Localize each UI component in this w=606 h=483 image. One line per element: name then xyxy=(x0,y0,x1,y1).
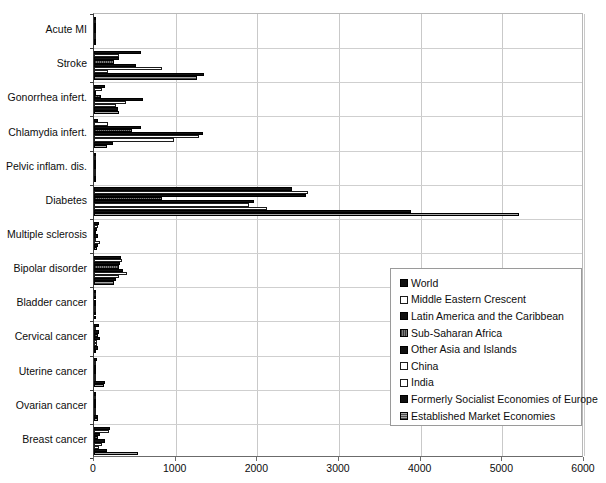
bar xyxy=(94,76,197,79)
legend-item[interactable]: India xyxy=(400,375,581,392)
legend-label: Other Asia and Islands xyxy=(411,344,517,355)
legend-swatch-icon xyxy=(400,296,408,304)
x-axis-tick-0 xyxy=(93,457,94,461)
y-axis-label-bladder-cancer: Bladder cancer xyxy=(16,297,87,308)
legend-item[interactable]: China xyxy=(400,358,581,375)
legend-item[interactable]: Other Asia and Islands xyxy=(400,341,581,358)
y-axis-tick xyxy=(90,151,94,152)
legend-label: Sub-Saharan Africa xyxy=(411,328,502,339)
bar xyxy=(94,111,119,114)
legend-label: Established Market Economies xyxy=(411,411,555,422)
category-separator xyxy=(94,253,582,254)
y-axis-label-bipolar-disorder: Bipolar disorder xyxy=(13,263,87,274)
y-axis-label-cervical-cancer: Cervical cancer xyxy=(15,331,87,342)
x-axis-tick-4000 xyxy=(420,457,421,461)
category-separator xyxy=(94,82,582,83)
legend-item[interactable]: Formerly Socialist Economies of Europe xyxy=(400,391,581,408)
y-axis-tick xyxy=(90,82,94,83)
bar xyxy=(94,281,114,284)
y-axis-label-acute-mi: Acute MI xyxy=(46,24,87,35)
legend-swatch-icon xyxy=(400,362,408,370)
legend-item[interactable]: Latin America and the Caribbean xyxy=(400,308,581,325)
y-axis-tick xyxy=(90,219,94,220)
legend-item[interactable]: Sub-Saharan Africa xyxy=(400,325,581,342)
legend-label: China xyxy=(411,361,438,372)
bar xyxy=(94,145,107,148)
bar xyxy=(94,452,138,455)
bar xyxy=(94,418,98,421)
legend-label: India xyxy=(411,377,434,388)
category-separator xyxy=(94,185,582,186)
y-axis-label-pelvic-inflam-dis: Pelvic inflam. dis. xyxy=(6,161,87,172)
chart-container: Acute MIStrokeGonorrhea infert.Chlamydia… xyxy=(0,0,606,483)
x-axis-tick-2000 xyxy=(256,457,257,461)
legend-swatch-icon xyxy=(400,279,408,287)
gridline-6000 xyxy=(584,14,585,456)
x-axis-tick-5000 xyxy=(501,457,502,461)
legend-label: Middle Eastern Crescent xyxy=(411,294,526,305)
legend-swatch-icon xyxy=(400,346,408,354)
y-axis-label-stroke: Stroke xyxy=(57,58,87,69)
x-axis-tick-6000 xyxy=(583,457,584,461)
bar xyxy=(94,42,96,45)
bar xyxy=(94,247,97,250)
legend-swatch-icon xyxy=(400,379,408,387)
y-axis-label-chlamydia-infert: Chlamydia infert. xyxy=(8,127,87,138)
y-axis-tick xyxy=(90,253,94,254)
bottom-artifact-text xyxy=(120,473,500,481)
y-axis-tick xyxy=(90,48,94,49)
y-axis-tick xyxy=(90,356,94,357)
legend-item[interactable]: World xyxy=(400,275,581,292)
bar xyxy=(94,384,104,387)
x-axis-label-0: 0 xyxy=(90,462,96,474)
y-axis-tick xyxy=(90,185,94,186)
category-separator xyxy=(94,219,582,220)
bar xyxy=(94,179,96,182)
y-axis-label-diabetes: Diabetes xyxy=(46,195,87,206)
legend-item[interactable]: Established Market Economies xyxy=(400,408,581,425)
y-axis-tick xyxy=(90,321,94,322)
y-axis-label-uterine-cancer: Uterine cancer xyxy=(19,366,87,377)
y-axis-tick xyxy=(90,424,94,425)
y-axis-tick xyxy=(90,390,94,391)
legend-swatch-icon xyxy=(400,312,408,320)
y-axis-label-gonorrhea-infert: Gonorrhea infert. xyxy=(8,92,87,103)
y-axis-tick xyxy=(90,14,94,15)
legend-label: World xyxy=(411,278,438,289)
legend-label: Latin America and the Caribbean xyxy=(411,311,564,322)
category-separator xyxy=(94,48,582,49)
y-axis-tick xyxy=(90,287,94,288)
category-separator xyxy=(94,116,582,117)
bar xyxy=(94,350,96,353)
legend-swatch-icon xyxy=(400,395,408,403)
y-axis-label-multiple-sclerosis: Multiple sclerosis xyxy=(7,229,87,240)
bar xyxy=(94,316,96,319)
x-axis-label-6000: 6000 xyxy=(571,462,594,474)
legend: WorldMiddle Eastern CrescentLatin Americ… xyxy=(390,268,582,426)
legend-swatch-icon xyxy=(400,329,408,337)
y-axis-tick xyxy=(90,116,94,117)
x-axis-tick-1000 xyxy=(175,457,176,461)
legend-label: Formerly Socialist Economies of Europe xyxy=(411,394,598,405)
legend-swatch-icon xyxy=(400,412,408,420)
y-axis-label-breast-cancer: Breast cancer xyxy=(22,434,87,445)
y-axis-label-ovarian-cancer: Ovarian cancer xyxy=(16,400,87,411)
legend-item[interactable]: Middle Eastern Crescent xyxy=(400,292,581,309)
x-axis-tick-3000 xyxy=(338,457,339,461)
category-separator xyxy=(94,151,582,152)
bar xyxy=(94,213,519,216)
